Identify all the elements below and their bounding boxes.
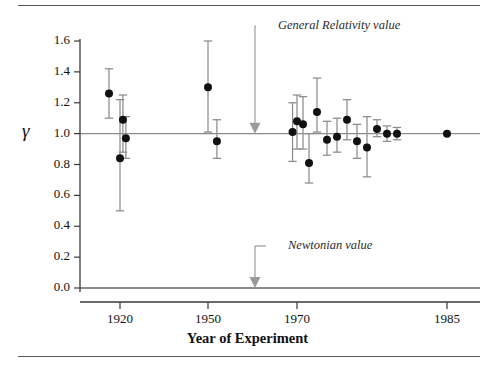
y-tick-label: 0.4 — [36, 217, 70, 233]
y-tick-label: 0.2 — [36, 248, 70, 264]
data-points — [105, 83, 451, 167]
annotation-newtonian: Newtonian value — [288, 238, 372, 253]
y-tick-label: 1.6 — [36, 32, 70, 48]
axes — [74, 39, 480, 309]
y-tick-label: 0.0 — [36, 279, 70, 295]
x-tick-label: 1950 — [178, 311, 238, 327]
annotation-general-relativity: General Relativity value — [278, 18, 400, 33]
x-tick-label: 1920 — [90, 311, 150, 327]
x-axis-title: Year of Experiment — [0, 330, 495, 347]
y-tick-label: 1.2 — [36, 94, 70, 110]
figure-container: General Relativity value Newtonian value… — [0, 0, 495, 366]
y-tick-label: 0.6 — [36, 186, 70, 202]
x-tick-label: 1985 — [417, 311, 477, 327]
y-axis-title: γ — [22, 120, 30, 142]
x-tick-label: 1970 — [267, 311, 327, 327]
annotation-leaders — [250, 26, 267, 288]
y-tick-label: 0.8 — [36, 156, 70, 172]
y-tick-label: 1.4 — [36, 63, 70, 79]
reference-lines — [80, 134, 480, 288]
y-tick-label: 1.0 — [36, 125, 70, 141]
